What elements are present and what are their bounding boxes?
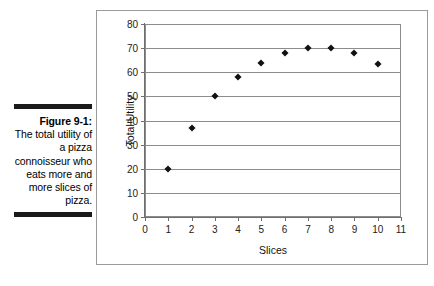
figure-frame: Total Utility 01020304050607080 01234567… [96,10,428,265]
x-tick-2 [192,217,193,221]
y-tick-50 [141,96,145,97]
x-axis-title-text: Slices [259,244,287,256]
y-tick-30 [141,145,145,146]
y-tick-label-70: 70 [127,43,138,54]
y-tick-label-0: 0 [132,212,138,223]
y-tick-10 [141,193,145,194]
x-tick-10 [378,217,379,221]
gridline-y-20 [145,169,401,170]
gridline-y-60 [145,72,401,73]
figure-caption-block: Figure 9-1: The total utility of a pizza… [14,104,92,217]
gridline-y-50 [145,96,401,97]
x-tick-label-3: 3 [212,224,218,235]
plot-area: 01020304050607080 01234567891011 [145,24,401,217]
gridline-y-10 [145,193,401,194]
x-tick-label-8: 8 [328,224,334,235]
y-tick-60 [141,72,145,73]
y-tick-80 [141,24,145,25]
y-tick-label-30: 30 [127,139,138,150]
y-tick-label-20: 20 [127,163,138,174]
y-tick-label-50: 50 [127,91,138,102]
x-tick-7 [308,217,309,221]
y-tick-20 [141,169,145,170]
y-tick-40 [141,121,145,122]
x-tick-label-7: 7 [305,224,311,235]
gridline-y-80 [145,24,401,25]
gridline-y-70 [145,48,401,49]
x-tick-label-0: 0 [142,224,148,235]
x-tick-label-5: 5 [259,224,265,235]
x-tick-0 [145,217,146,221]
x-axis-line [144,217,402,218]
x-tick-label-4: 4 [235,224,241,235]
x-tick-label-10: 10 [372,224,383,235]
caption-figure-label: Figure 9-1: [14,115,92,128]
caption-figure-body: The total utility of a pizza connoisseur… [14,128,92,207]
y-tick-label-10: 10 [127,187,138,198]
caption-text: Figure 9-1: The total utility of a pizza… [14,109,92,212]
x-tick-5 [261,217,262,221]
x-tick-4 [238,217,239,221]
caption-rule-bottom [14,212,92,217]
gridline-y-40 [145,121,401,122]
x-tick-8 [331,217,332,221]
x-tick-6 [285,217,286,221]
x-tick-label-9: 9 [352,224,358,235]
x-tick-9 [354,217,355,221]
x-tick-label-2: 2 [189,224,195,235]
y-tick-70 [141,48,145,49]
x-tick-3 [215,217,216,221]
y-tick-label-60: 60 [127,67,138,78]
x-tick-label-1: 1 [165,224,171,235]
x-tick-11 [401,217,402,221]
x-tick-label-11: 11 [396,224,406,235]
gridline-y-30 [145,145,401,146]
y-tick-label-80: 80 [127,19,138,30]
x-tick-label-6: 6 [282,224,288,235]
y-tick-label-40: 40 [127,115,138,126]
x-tick-1 [168,217,169,221]
x-axis-title: Slices [145,244,401,256]
